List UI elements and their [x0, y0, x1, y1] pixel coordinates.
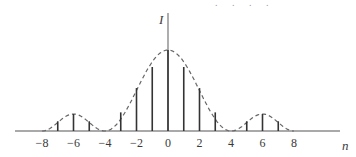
top-dots: . . . . — [215, 0, 275, 8]
stems-group — [58, 50, 279, 131]
x-tick-label: −2 — [130, 136, 143, 150]
x-tick-label: 0 — [165, 136, 171, 150]
x-tick-label: −6 — [67, 136, 80, 150]
x-tick-label: 4 — [228, 136, 234, 150]
x-tick-label: 6 — [260, 136, 266, 150]
x-tick-label: −8 — [36, 136, 49, 150]
y-axis-label: I — [158, 12, 164, 27]
x-tick-labels: −8−6−4−202468 — [36, 136, 297, 150]
x-tick-label: −4 — [99, 136, 112, 150]
x-axis-label: n — [342, 138, 349, 153]
x-tick-label: 8 — [291, 136, 297, 150]
intensity-stem-chart: . . . . I n −8−6−4−202468 — [0, 0, 356, 157]
x-tick-label: 2 — [197, 136, 203, 150]
